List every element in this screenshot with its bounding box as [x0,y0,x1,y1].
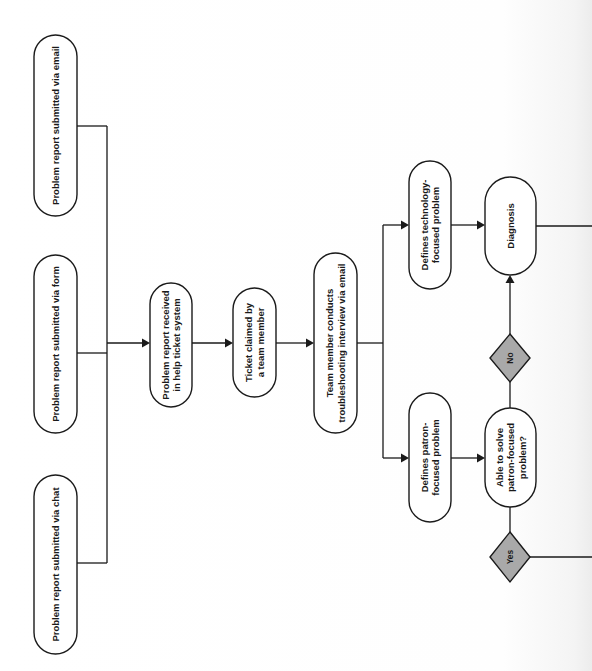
node-label: Problem report submitted via email [50,46,61,205]
decision-label: Yes [505,549,515,564]
decision-no: No [490,334,530,382]
connector-tech-to-diagnosis [451,221,485,230]
node-able: Able to solvepatron-focusedproblem? [485,408,536,507]
node-label: Defines patron-focused problem [419,419,442,496]
arrowhead-icon [401,221,409,230]
connector-no-to-diagnosis [506,275,515,334]
node-label: Ticket claimed bya team member [243,302,266,382]
nodes-layer: Problem report submitted via emailProble… [34,35,536,654]
arrowhead-icon [306,339,314,348]
node-label: Diagnosis [505,203,516,248]
connector-claimed-to-interview [276,339,314,348]
connector-branch-to-patron [383,454,409,463]
flowchart-svg: Problem report submitted via emailProble… [0,0,592,671]
node-received: Problem report receivedin help ticket sy… [150,283,192,407]
node-chat: Problem report submitted via chat [34,475,77,654]
node-patron: Defines patron-focused problem [409,393,451,522]
node-interview: Team member conductstroubleshooting inte… [314,253,357,433]
arrowhead-icon [401,454,409,463]
decision-yes: Yes [490,532,530,582]
node-label: Problem report receivedin help ticket sy… [160,290,183,399]
node-diagnosis: Diagnosis [485,177,536,275]
arrowhead-icon [225,339,233,348]
node-tech: Defines technology-focused problem [409,161,451,289]
node-form: Problem report submitted via form [34,255,77,433]
node-label: Defines technology-focused problem [419,180,442,271]
flowchart-canvas: Problem report submitted via emailProble… [0,0,592,671]
connector-received-to-claimed [192,339,233,348]
node-label: Problem report submitted via chat [50,487,61,642]
decision-label: No [505,352,515,363]
connector-bus-to-received [107,339,150,348]
arrowhead-icon [477,221,485,230]
arrowhead-icon [477,454,485,463]
node-label: Problem report submitted via form [50,266,61,422]
connector-branch-to-tech [383,221,409,230]
connector-patron-to-able [451,454,485,463]
node-claimed: Ticket claimed bya team member [233,288,276,397]
arrowhead-icon [142,339,150,348]
arrowhead-icon [506,275,515,283]
node-email: Problem report submitted via email [34,35,77,216]
